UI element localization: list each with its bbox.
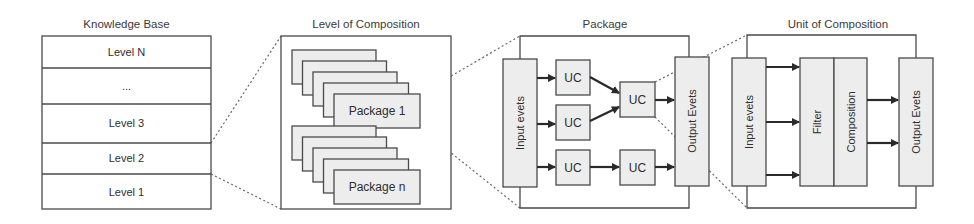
package-bracket-bottom xyxy=(520,186,689,208)
level-2: Level 2 xyxy=(109,152,144,164)
uoc-input-events-label: Input evets xyxy=(743,95,755,149)
package-title: Package xyxy=(583,18,628,30)
uc-label-2: UC xyxy=(564,116,582,130)
uc-label-5: UC xyxy=(629,161,647,175)
uoc-bracket-bottom xyxy=(747,186,916,208)
level-1: Level 1 xyxy=(109,186,144,198)
package-n-label: Package n xyxy=(349,180,406,194)
uoc-bracket-top xyxy=(747,35,916,58)
unit-of-composition-title: Unit of Composition xyxy=(788,18,888,30)
uc-label-4: UC xyxy=(629,93,647,107)
level-of-composition-title: Level of Composition xyxy=(312,18,419,30)
filter-label: Filter xyxy=(811,109,823,134)
level-n: Level N xyxy=(108,46,145,58)
package-bracket-top xyxy=(520,36,689,59)
level-of-composition-panel: Level of Composition Package 1 Package n xyxy=(281,18,451,209)
composition-label: Composition xyxy=(845,91,857,152)
package-output-events-label: Output Evets xyxy=(686,89,698,153)
architecture-diagram: Knowledge Base Level N ... Level 3 Level… xyxy=(0,0,974,224)
level-3: Level 3 xyxy=(109,117,144,129)
package-1-label: Package 1 xyxy=(349,104,406,118)
package-panel: Package Input evets UC UC UC UC UC Outpu… xyxy=(503,18,709,208)
connector-kb-to-loc-top xyxy=(211,36,281,143)
knowledge-base-title: Knowledge Base xyxy=(83,18,169,30)
uoc-output-events-label: Output Evets xyxy=(910,90,922,154)
uc-label-3: UC xyxy=(564,161,582,175)
unit-of-composition-panel: Unit of Composition Input evets Filter C… xyxy=(732,18,933,208)
uc-label-1: UC xyxy=(564,71,582,85)
knowledge-base-panel: Knowledge Base Level N ... Level 3 Level… xyxy=(42,18,211,209)
package-input-events-label: Input evets xyxy=(514,96,526,150)
level-ellipsis: ... xyxy=(122,80,131,92)
connector-kb-to-loc-bottom xyxy=(211,174,281,209)
